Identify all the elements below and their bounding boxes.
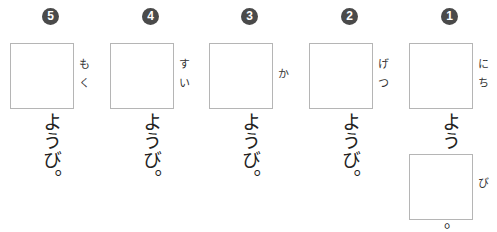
furigana-reading: げつ [378,58,392,96]
furigana-reading: もく [79,58,93,96]
question-2: 2 げつ ようび。 [300,0,400,232]
kanji-answer-box[interactable] [309,43,373,109]
okurigana-text: ようび。 [140,112,162,188]
kanji-answer-box[interactable] [110,43,174,109]
question-number-badge: 1 [441,8,458,25]
kanji-answer-box[interactable] [209,43,273,109]
question-number-badge: 3 [241,8,258,25]
question-1: 1 にち よう び 。 [400,0,497,232]
kanji-answer-box[interactable] [10,43,74,109]
question-number-badge: 4 [142,8,159,25]
okurigana-text: ようび。 [239,112,261,188]
okurigana-text: ようび。 [40,112,62,188]
furigana-reading: すい [179,58,193,96]
question-number-badge: 2 [341,8,358,25]
question-4: 4 すい ようび。 [101,0,201,232]
question-number-badge: 5 [42,8,59,25]
okurigana-text: ようび。 [339,112,361,188]
kanji-answer-box[interactable] [409,43,473,109]
furigana-reading: か [278,68,292,87]
trailing-period: 。 [444,214,456,230]
question-5: 5 もく ようび。 [1,0,101,232]
furigana-reading-second: び [478,177,492,196]
furigana-reading: にち [478,58,492,96]
question-3: 3 か ようび。 [200,0,300,232]
kanji-answer-box-second[interactable] [409,154,473,220]
okurigana-text: よう [439,112,461,150]
